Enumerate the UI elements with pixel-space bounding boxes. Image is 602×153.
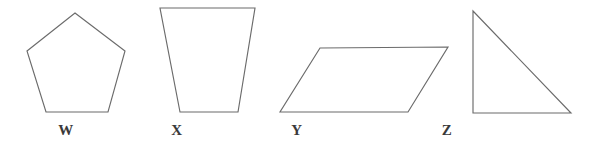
shape-w-pentagon xyxy=(27,13,125,112)
shape-y-parallelogram xyxy=(280,47,448,112)
shape-label-y: Y xyxy=(291,123,302,138)
shape-label-w: W xyxy=(58,123,74,138)
shapes-figure: W X Y Z xyxy=(0,0,602,153)
shape-label-z: Z xyxy=(442,123,453,138)
shape-label-x: X xyxy=(171,123,182,138)
shape-x-trapezoid xyxy=(160,8,255,112)
shape-z-triangle xyxy=(473,11,571,113)
